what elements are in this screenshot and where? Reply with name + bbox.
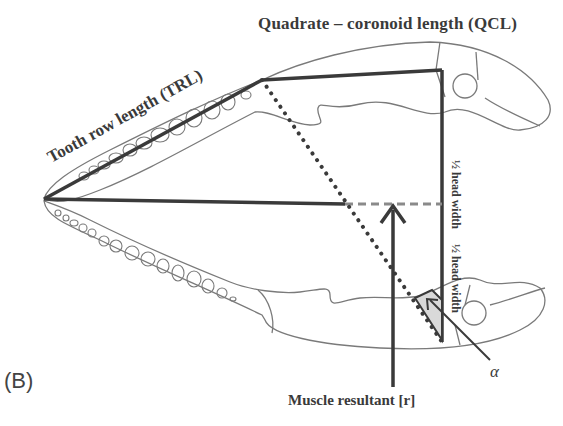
dotted-diagonal — [262, 80, 442, 342]
qcl-line — [262, 70, 442, 80]
panel-label: (B) — [4, 368, 33, 394]
muscle-resultant-label: Muscle resultant [r] — [288, 392, 415, 409]
qcl-label: Quadrate – coronoid length (QCL) — [258, 14, 517, 34]
jaw-diagram: Quadrate – coronoid length (QCL) Tooth r… — [0, 0, 563, 426]
alpha-label: α — [490, 362, 499, 382]
half-head-width-label-upper: ½ head width — [448, 160, 463, 229]
half-head-width-label-lower: ½ head width — [448, 244, 463, 313]
lower-mandible-outline — [44, 201, 545, 349]
midline — [44, 199, 345, 204]
jaw-outline-drawing — [0, 0, 563, 426]
lower-teeth — [55, 210, 236, 301]
